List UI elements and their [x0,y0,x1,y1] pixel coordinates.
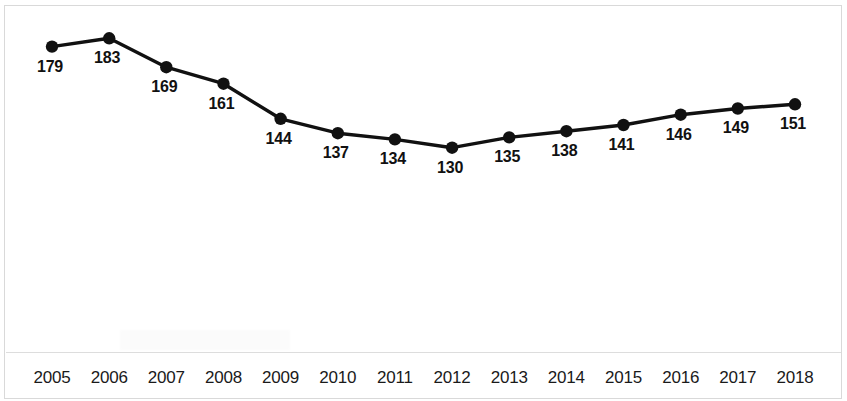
data-point-marker [160,61,172,73]
x-axis-tick-label: 2010 [319,368,356,388]
x-axis-tick-label: 2011 [377,368,413,388]
data-point-marker [446,142,458,154]
x-axis-tick-label: 2013 [491,368,528,388]
data-value-label: 144 [266,130,292,148]
data-point-marker [675,109,687,121]
data-value-label: 137 [323,144,349,162]
data-value-label: 149 [723,119,749,137]
data-value-label: 169 [151,78,177,96]
x-axis-tick-label: 2014 [548,368,585,388]
x-axis-tick-label: 2012 [434,368,471,388]
data-value-label: 183 [94,49,120,67]
data-value-label: 134 [380,150,406,168]
data-point-marker [217,78,229,90]
x-axis-tick-label: 2007 [148,368,185,388]
data-point-marker [332,127,344,139]
x-axis-tick-label: 2005 [33,368,70,388]
data-point-marker [732,102,744,114]
chart-page: 1791831691611441371341301351381411461491… [0,0,847,401]
data-value-label: 151 [780,115,806,133]
data-point-marker [560,125,572,137]
x-axis-tick-label: 2018 [776,368,813,388]
x-axis-tick-label: 2008 [205,368,242,388]
data-point-marker [789,98,801,110]
data-point-marker [274,113,286,125]
data-value-label: 141 [608,136,634,154]
x-axis-tick-label: 2016 [662,368,699,388]
data-value-label: 146 [666,126,692,144]
data-point-marker [503,131,515,143]
data-value-label: 138 [551,142,577,160]
data-point-marker [46,40,58,52]
data-value-label: 135 [494,148,520,166]
data-value-label: 179 [37,58,63,76]
x-axis-tick-label: 2017 [719,368,756,388]
line-chart-plot [0,0,847,401]
data-point-marker [103,32,115,44]
x-axis-tick-label: 2006 [91,368,128,388]
data-point-marker [389,133,401,145]
x-axis-tick-label: 2015 [605,368,642,388]
data-point-marker [617,119,629,131]
data-value-label: 130 [437,159,463,177]
data-value-label: 161 [208,95,234,113]
x-axis-tick-label: 2009 [262,368,299,388]
